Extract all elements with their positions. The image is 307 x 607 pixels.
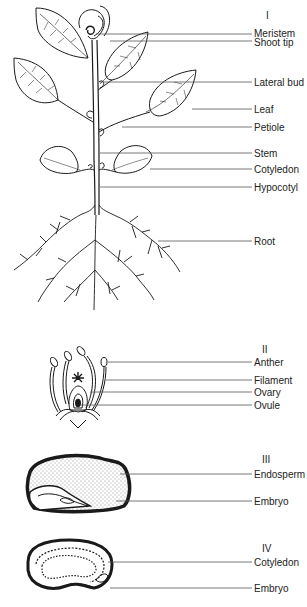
- label-embryo-iii: Embryo: [254, 496, 288, 507]
- lateral-bud: [99, 129, 104, 136]
- leaf-top-left: [36, 8, 88, 58]
- label-petiole: Petiole: [254, 122, 285, 133]
- seed-endosperm-leader-lines: [116, 474, 252, 501]
- plant-leader-lines: [96, 34, 252, 241]
- label-leaf: Leaf: [254, 104, 273, 115]
- label-cotyledon: Cotyledon: [254, 164, 299, 175]
- anther: [49, 356, 59, 368]
- seed-cotyledon-leader-lines: [108, 562, 252, 588]
- seed-endosperm-illustration: [27, 456, 129, 512]
- root-system: [14, 205, 180, 310]
- flower-illustration: [49, 345, 107, 428]
- diagram-canvas: [0, 0, 307, 607]
- label-root: Root: [254, 236, 275, 247]
- label-hypocotyl: Hypocotyl: [254, 182, 298, 193]
- leaf-mid-left: [14, 58, 93, 122]
- seed-cotyledon-illustration: [28, 540, 112, 588]
- label-ovary: Ovary: [254, 387, 281, 398]
- label-anther: Anther: [254, 357, 283, 368]
- anther: [101, 358, 107, 367]
- panel-numeral-iii: III: [262, 454, 270, 465]
- cotyledon-left: [40, 146, 94, 173]
- cotyledon-right: [88, 146, 152, 174]
- panel-numeral-i: I: [266, 10, 269, 21]
- panel-numeral-iv: IV: [262, 543, 271, 554]
- label-filament: Filament: [254, 375, 292, 386]
- anther: [63, 350, 73, 362]
- anther: [75, 345, 86, 357]
- label-ovule: Ovule: [254, 400, 280, 411]
- label-lateral-bud: Lateral bud: [254, 77, 304, 88]
- lateral-bud: [87, 111, 93, 118]
- panel-numeral-ii: II: [262, 344, 268, 355]
- label-endosperm: Endosperm: [254, 469, 305, 480]
- label-shoot-tip: Shoot tip: [254, 37, 293, 48]
- label-stem: Stem: [254, 148, 277, 159]
- label-cotyledon-iv: Cotyledon: [254, 557, 299, 568]
- label-embryo-iv: Embryo: [254, 583, 288, 594]
- plant-illustration: [14, 6, 196, 310]
